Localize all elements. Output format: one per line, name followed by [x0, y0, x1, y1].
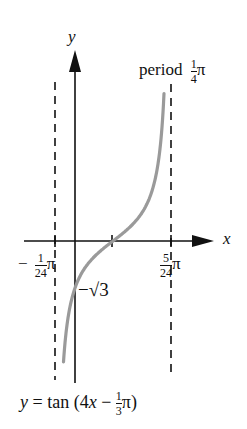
- period-annotation: period 1 4 π: [139, 58, 205, 85]
- x-axis-arrow-icon: [192, 235, 214, 247]
- y-intercept-label: −√3: [78, 280, 109, 299]
- eq-var: x: [89, 392, 97, 412]
- eq-minus: −: [97, 392, 116, 412]
- eq-y: y: [20, 392, 28, 412]
- eq-suffix: π): [122, 392, 137, 412]
- y-axis-label: y: [68, 28, 76, 45]
- y-axis-arrow-icon: [69, 50, 81, 72]
- left-pi: π: [47, 254, 56, 273]
- right-asymptote-label: 5 24 π: [160, 252, 181, 279]
- period-text: period: [139, 60, 182, 79]
- right-den: 24: [160, 267, 172, 279]
- left-asymptote-label: − 1 24 π: [18, 252, 55, 279]
- left-num: 1: [38, 252, 44, 264]
- left-den: 24: [35, 267, 47, 279]
- left-fraction: 1 24: [35, 252, 47, 279]
- x-axis-label: x: [223, 230, 231, 247]
- period-pi: π: [197, 60, 206, 79]
- right-pi: π: [172, 254, 181, 273]
- right-fraction: 5 24: [160, 252, 172, 279]
- equation-label: y = tan (4x − 1 3 π): [20, 390, 137, 417]
- left-sign: −: [18, 254, 28, 273]
- tangent-curve: [64, 94, 165, 362]
- right-num: 5: [163, 252, 169, 264]
- graph-canvas: [0, 0, 247, 429]
- eq-prefix: = tan (4: [28, 392, 89, 412]
